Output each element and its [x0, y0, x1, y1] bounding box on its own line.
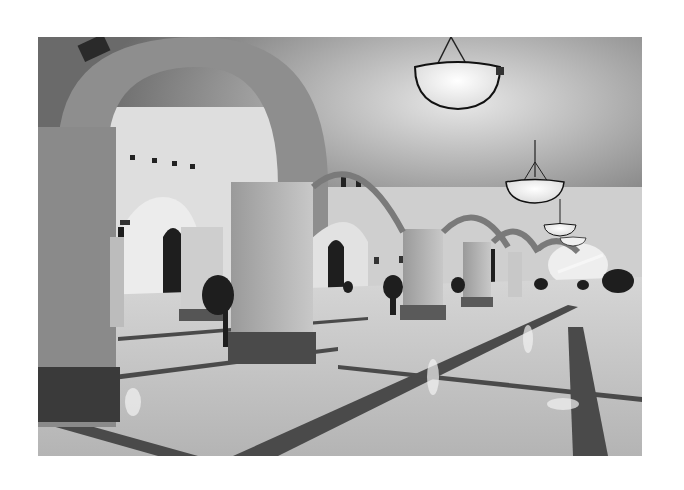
corridor-photo: [38, 37, 642, 456]
corridor-illustration: [38, 37, 642, 456]
